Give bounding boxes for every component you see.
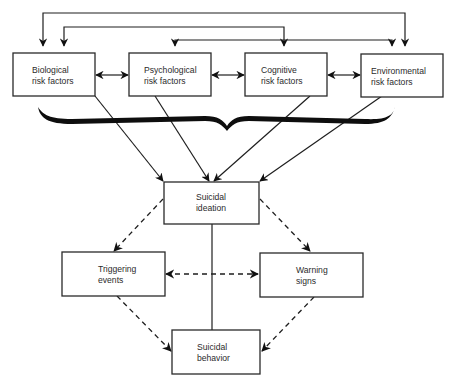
box-warning-line2: signs <box>296 276 316 286</box>
box-behavior: Suicidal behavior <box>172 330 260 374</box>
box-warning: Warning signs <box>260 253 363 297</box>
arrow-triggering-behavior <box>117 296 171 351</box>
arrow-environmental-ideation <box>260 96 382 181</box>
box-behavior-line1: Suicidal <box>197 342 227 352</box>
box-behavior-line2: behavior <box>197 353 230 363</box>
box-ideation-line2: ideation <box>196 203 226 213</box>
box-triggering-line2: events <box>98 275 123 285</box>
box-environmental-line1: Environmental <box>371 66 426 76</box>
arrow-biological-ideation <box>95 96 163 181</box>
box-warning-line1: Warning <box>296 265 328 275</box>
box-triggering-line1: Triggering <box>98 264 137 274</box>
arrow-cognitive-ideation <box>214 96 310 181</box>
arrow-ideation-triggering <box>114 199 163 251</box>
box-environmental-line2: risk factors <box>371 77 413 87</box>
box-psychological-line1: Psychological <box>144 65 197 75</box>
box-ideation: Suicidal ideation <box>164 182 259 224</box>
box-triggering: Triggering events <box>62 252 165 296</box>
arrow-ideation-warning <box>260 199 310 251</box>
diagram-canvas: Biological risk factors Psychological ri… <box>0 0 457 383</box>
box-biological-line1: Biological <box>32 65 69 75</box>
top-connector-biological-environmental <box>43 13 405 46</box>
arrow-psychological-ideation <box>155 96 209 181</box>
box-psychological: Psychological risk factors <box>129 53 211 96</box>
box-psychological-line2: risk factors <box>144 76 186 86</box>
box-cognitive: Cognitive risk factors <box>245 53 327 96</box>
box-cognitive-line1: Cognitive <box>261 65 297 75</box>
box-cognitive-line2: risk factors <box>261 76 303 86</box>
arrow-warning-behavior <box>262 297 314 351</box>
box-environmental: Environmental risk factors <box>361 54 443 97</box>
box-biological-line2: risk factors <box>32 76 74 86</box>
box-biological: Biological risk factors <box>13 53 95 96</box>
grouping-brace <box>38 107 395 131</box>
top-connector-biological-cognitive <box>64 27 284 46</box>
box-ideation-line1: Suicidal <box>196 192 226 202</box>
